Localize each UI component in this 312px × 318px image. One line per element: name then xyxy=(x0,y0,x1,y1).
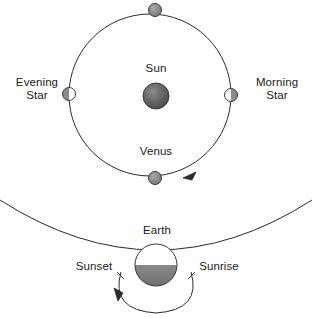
label-sunrise: Sunrise xyxy=(188,260,250,273)
label-venus: Venus xyxy=(122,145,190,158)
venus-morning-star xyxy=(225,89,238,102)
astronomy-diagram: Evening Star Morning Star Sun Venus Eart… xyxy=(0,0,312,318)
orbit-direction-arrow xyxy=(183,172,196,180)
venus-inferior-conjunction xyxy=(149,172,162,185)
label-evening-star: Evening Star xyxy=(6,76,68,102)
label-morning-star: Morning Star xyxy=(245,76,309,102)
label-sun: Sun xyxy=(128,62,184,75)
venus-superior-conjunction xyxy=(149,4,162,17)
label-earth: Earth xyxy=(126,224,188,237)
earth-sphere xyxy=(135,244,177,286)
sun-sphere xyxy=(143,83,169,109)
diagram-canvas xyxy=(0,0,312,318)
label-sunset: Sunset xyxy=(66,260,122,273)
